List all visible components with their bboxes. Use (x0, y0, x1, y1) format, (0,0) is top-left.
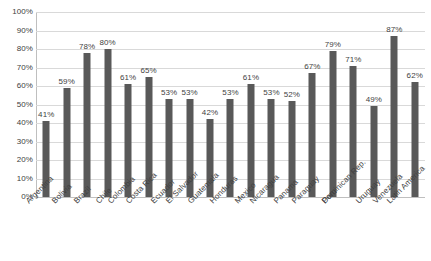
y-axis-tick-label: 50% (17, 101, 33, 109)
bar-group: 87% (384, 12, 404, 197)
bar-group: 59% (56, 12, 76, 197)
bar-value-label: 59% (59, 77, 75, 86)
bar-group: 67% (302, 12, 322, 197)
bar-value-label: 53% (222, 88, 238, 97)
y-axis-tick-label: 20% (17, 156, 33, 164)
bar (329, 51, 336, 197)
bar-value-label: 80% (99, 38, 115, 47)
bar-group: 49% (364, 12, 384, 197)
bar-value-label: 53% (161, 88, 177, 97)
bar-value-label: 87% (386, 25, 402, 34)
y-axis-tick-label: 10% (17, 175, 33, 183)
y-axis-tick-label: 70% (17, 64, 33, 72)
plot-area: 41%59%78%80%61%65%53%53%42%53%61%53%52%6… (36, 12, 425, 197)
bar-value-label: 61% (243, 73, 259, 82)
bar (104, 49, 111, 197)
bar-group: 53% (261, 12, 281, 197)
x-axis: ArgentinaBoliviaBrazilChileColombiaCosta… (36, 197, 425, 261)
bar-value-label: 42% (202, 108, 218, 117)
y-axis-tick-label: 80% (17, 45, 33, 53)
bar-group: 53% (179, 12, 199, 197)
bar (84, 53, 91, 197)
bar-value-label: 65% (140, 66, 156, 75)
bar-group: 61% (118, 12, 138, 197)
bar-value-label: 52% (284, 90, 300, 99)
bar-group: 53% (159, 12, 179, 197)
bar-value-label: 62% (407, 71, 423, 80)
y-axis-tick-label: 30% (17, 138, 33, 146)
bar-value-label: 67% (304, 62, 320, 71)
bar-value-label: 79% (325, 40, 341, 49)
bar-group: 52% (282, 12, 302, 197)
y-axis: 0%10%20%30%40%50%60%70%80%90%100% (0, 12, 33, 197)
bar-value-label: 53% (181, 88, 197, 97)
y-axis-tick-label: 100% (12, 8, 33, 16)
bar-group: 41% (36, 12, 56, 197)
y-axis-tick-label: 60% (17, 82, 33, 90)
bar-group: 78% (77, 12, 97, 197)
bar-value-label: 49% (366, 95, 382, 104)
bar-value-label: 61% (120, 73, 136, 82)
bar-group: 53% (220, 12, 240, 197)
bar-group: 42% (200, 12, 220, 197)
bar-chart: 0%10%20%30%40%50%60%70%80%90%100% 41%59%… (0, 0, 431, 261)
bars-layer: 41%59%78%80%61%65%53%53%42%53%61%53%52%6… (36, 12, 425, 197)
bar-group: 65% (138, 12, 158, 197)
bar-value-label: 53% (263, 88, 279, 97)
bar-value-label: 71% (345, 55, 361, 64)
bar-group: 79% (323, 12, 343, 197)
bar-value-label: 78% (79, 42, 95, 51)
bar-value-label: 41% (38, 110, 54, 119)
y-axis-tick-label: 40% (17, 119, 33, 127)
bar-group: 80% (97, 12, 117, 197)
bar-group: 61% (241, 12, 261, 197)
y-axis-tick-label: 90% (17, 27, 33, 35)
